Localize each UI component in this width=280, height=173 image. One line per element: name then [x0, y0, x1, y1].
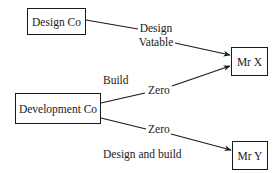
edge-devco-mrx-arrow [172, 66, 230, 86]
edge-label-zero-upper: Zero [148, 84, 170, 96]
node-mr-x: Mr X [231, 47, 268, 76]
edge-label-zero-lower: Zero [148, 123, 170, 135]
edge-label-build: Build [103, 74, 129, 86]
node-label: Mr X [237, 56, 262, 68]
node-label: Development Co [19, 103, 97, 115]
edge-label-design: Design [138, 22, 174, 34]
edge-designco-mrx-arrow [175, 43, 230, 55]
edge-label-vatable: Vatable [136, 36, 176, 48]
node-mr-y: Mr Y [232, 141, 268, 170]
edge-devco-zero-upper [101, 93, 145, 103]
node-label: Mr Y [238, 150, 263, 162]
edge-devco-zero-lower [101, 118, 146, 129]
edge-label-design-and-build: Design and build [103, 148, 182, 160]
node-label: Design Co [32, 16, 81, 28]
edge-designco-label [86, 20, 138, 29]
node-development-co: Development Co [15, 93, 101, 124]
node-design-co: Design Co [27, 8, 86, 35]
